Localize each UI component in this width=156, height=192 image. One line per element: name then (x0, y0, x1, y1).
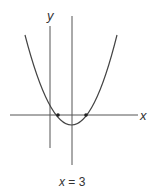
symmetry-label-value: = 3 (65, 175, 86, 189)
x-axis-label: x (139, 108, 147, 123)
parabola-diagram: y x x = 3 (0, 0, 156, 192)
parabola-curve (25, 35, 117, 125)
right-root-point (84, 113, 88, 117)
left-root-point (56, 113, 60, 117)
symmetry-line-label: x = 3 (58, 175, 86, 189)
y-axis-label: y (46, 8, 55, 23)
